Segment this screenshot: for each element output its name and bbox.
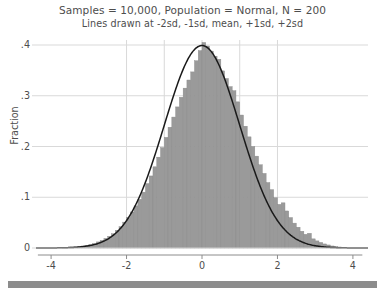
histogram-bars <box>62 42 341 248</box>
chart-canvas: Samples = 10,000, Population = Normal, N… <box>0 0 385 294</box>
plot-area <box>0 0 385 294</box>
bottom-accent-bar <box>8 281 377 288</box>
